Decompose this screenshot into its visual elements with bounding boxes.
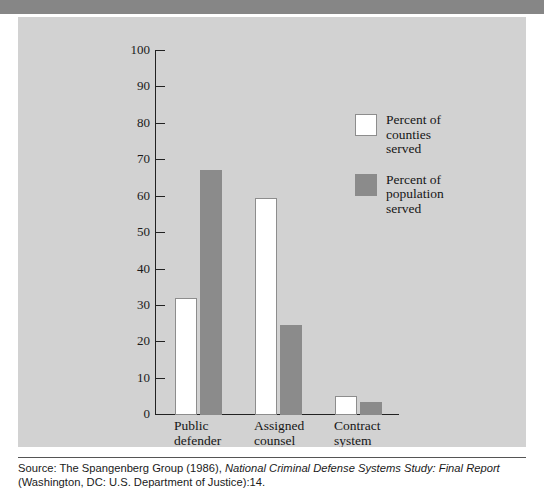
y-tick-label-0: 0 (118, 407, 150, 420)
category-label-line1: Contract (334, 419, 424, 434)
y-tick-label-30: 30 (118, 298, 150, 311)
y-tick-30 (156, 305, 165, 306)
chart-panel: 100 90 80 70 60 50 40 30 20 10 0 Public … (18, 17, 526, 447)
legend-label-line1: Percent of (386, 113, 441, 128)
caption-divider (18, 457, 526, 458)
caption-suffix: (Washington, DC: U.S. Department of Just… (18, 476, 265, 488)
legend-label-line2: population (386, 187, 444, 202)
category-label-contract: Contract system (334, 419, 424, 448)
bar-public-defender-counties (175, 298, 197, 415)
y-tick-label-100: 100 (118, 43, 150, 56)
y-tick-90 (156, 86, 165, 87)
y-tick-label-10: 10 (118, 371, 150, 384)
gray-swatch-icon (355, 174, 377, 196)
y-tick-40 (156, 269, 165, 270)
legend-label-population: Percent of population served (386, 173, 444, 217)
bar-contract-counties (335, 396, 357, 415)
category-label-line2: system (334, 434, 424, 449)
category-label-line2: defender (174, 434, 264, 449)
y-tick-80 (156, 123, 165, 124)
caption-prefix: Source: The Spangenberg Group (1986), (18, 462, 225, 474)
y-tick-label-20: 20 (118, 334, 150, 347)
y-tick-70 (156, 159, 165, 160)
bar-contract-population (360, 402, 382, 415)
y-tick-0 (156, 414, 165, 415)
legend-item-population: Percent of population served (355, 173, 505, 217)
y-tick-label-60: 60 (118, 189, 150, 202)
legend-label-line1: Percent of (386, 173, 444, 188)
bar-assigned-counsel-counties (255, 198, 277, 415)
top-decorative-band (0, 0, 544, 14)
legend-label-counties: Percent of counties served (386, 113, 441, 157)
y-tick-label-50: 50 (118, 225, 150, 238)
legend-item-counties: Percent of counties served (355, 113, 505, 157)
y-tick-60 (156, 196, 165, 197)
category-label-line2: counsel (254, 434, 344, 449)
y-tick-label-90: 90 (118, 79, 150, 92)
y-tick-10 (156, 378, 165, 379)
y-tick-20 (156, 341, 165, 342)
white-swatch-icon (355, 114, 377, 136)
legend-label-line3: served (386, 202, 444, 217)
y-tick-50 (156, 232, 165, 233)
y-tick-label-40: 40 (118, 262, 150, 275)
legend-label-line3: served (386, 142, 441, 157)
bar-public-defender-population (200, 170, 222, 415)
y-tick-100 (156, 50, 165, 51)
bar-assigned-counsel-population (280, 325, 302, 415)
category-label-line1: Public (174, 419, 264, 434)
y-tick-label-80: 80 (118, 116, 150, 129)
caption-italic-title: National Criminal Defense Systems Study:… (225, 462, 500, 474)
category-label-line1: Assigned (254, 419, 344, 434)
source-caption-area: Source: The Spangenberg Group (1986), Na… (0, 447, 544, 484)
chart-legend: Percent of counties served Percent of po… (355, 113, 505, 232)
y-tick-label-70: 70 (118, 152, 150, 165)
source-caption: Source: The Spangenberg Group (1986), Na… (18, 462, 530, 489)
legend-label-line2: counties (386, 128, 441, 143)
